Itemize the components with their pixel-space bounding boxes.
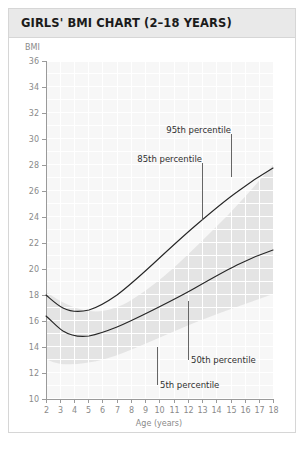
screenshot-root: GIRLS' BMI CHART (2–18 YEARS) [0, 0, 306, 450]
y-tick-label: 36 [29, 57, 39, 66]
card-header: GIRLS' BMI CHART (2–18 YEARS) [9, 9, 295, 38]
x-tick-label: 2 [44, 406, 49, 415]
x-tick-label: 17 [254, 406, 264, 415]
x-axis-ticks [47, 399, 274, 403]
x-tick-label: 5 [86, 406, 91, 415]
y-axis-title: BMI [25, 43, 40, 52]
y-tick-label: 30 [29, 135, 39, 144]
y-tick-label: 34 [29, 83, 39, 92]
y-tick-label: 32 [29, 109, 39, 118]
y-tick-label: 28 [29, 161, 39, 170]
chart-plot-area: 10 12 14 16 18 20 22 24 26 28 30 32 34 3… [9, 38, 295, 432]
page-title: GIRLS' BMI CHART (2–18 YEARS) [21, 16, 232, 30]
bmi-chart-svg: 10 12 14 16 18 20 22 24 26 28 30 32 34 3… [9, 38, 295, 432]
annotation-label: 85th percentile [137, 154, 202, 164]
x-tick-label: 15 [226, 406, 236, 415]
x-tick-label: 18 [268, 406, 278, 415]
x-tick-label: 3 [58, 406, 63, 415]
annotation-label: 5th percentile [160, 380, 219, 390]
y-tick-label: 18 [29, 291, 39, 300]
x-tick-label: 8 [129, 406, 134, 415]
y-tick-label: 22 [29, 239, 39, 248]
x-tick-label: 14 [211, 406, 221, 415]
annotation-label: 50th percentile [191, 355, 256, 365]
x-tick-label: 4 [72, 406, 77, 415]
y-tick-label: 14 [29, 343, 39, 352]
x-tick-label: 11 [169, 406, 179, 415]
x-axis-title: Age (years) [136, 419, 182, 428]
y-tick-label: 20 [29, 265, 39, 274]
y-axis-ticks [42, 62, 46, 400]
x-tick-label: 13 [197, 406, 207, 415]
x-tick-label: 10 [154, 406, 164, 415]
x-tick-label: 7 [115, 406, 120, 415]
y-tick-label: 12 [29, 369, 39, 378]
x-tick-label: 6 [100, 406, 105, 415]
x-tick-label: 12 [183, 406, 193, 415]
y-tick-label: 24 [29, 213, 39, 222]
x-axis-tick-labels: 2 3 4 5 6 7 8 9 10 11 12 13 14 15 16 17 [44, 406, 279, 415]
x-tick-label: 9 [143, 406, 148, 415]
bmi-chart-card: GIRLS' BMI CHART (2–18 YEARS) [8, 8, 296, 433]
y-axis-tick-labels: 10 12 14 16 18 20 22 24 26 28 30 32 34 3… [29, 57, 39, 404]
y-tick-label: 26 [29, 187, 39, 196]
annotation-label: 95th percentile [166, 125, 231, 135]
y-tick-label: 10 [29, 395, 39, 404]
x-tick-label: 16 [240, 406, 250, 415]
y-tick-label: 16 [29, 317, 39, 326]
